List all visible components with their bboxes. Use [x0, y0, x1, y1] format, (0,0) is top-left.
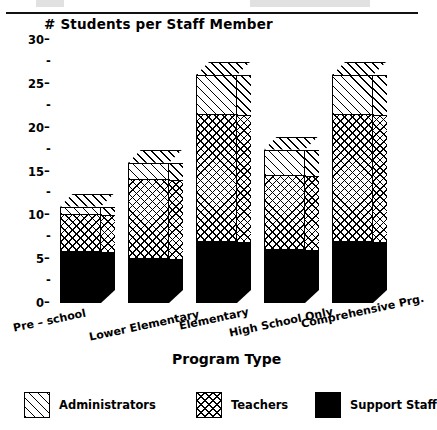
bar-segment-support-staff	[265, 249, 304, 302]
bar-front-face	[264, 150, 305, 303]
y-axis-tick-label: 5	[18, 254, 44, 264]
y-axis-tick-label: 15	[18, 167, 44, 177]
bar-right-segment-teachers	[305, 176, 319, 251]
bar-right-face	[237, 62, 251, 303]
bar-front-face	[128, 163, 169, 303]
bar-segment-support-staff	[197, 241, 236, 302]
bar-segment-teachers	[265, 175, 304, 250]
y-axis-tick-mark: –	[44, 166, 50, 176]
bar-segment-teachers	[129, 179, 168, 258]
bar-segment-support-staff	[333, 241, 372, 302]
y-axis-minor-tick-mark: -	[46, 275, 51, 285]
legend-swatch-solid	[315, 392, 341, 418]
bar-right-segment-support-staff	[101, 252, 115, 303]
bar-segment-administrators	[265, 150, 304, 175]
y-axis-tick-label: 0	[18, 298, 44, 308]
legend-swatch-diagonal	[24, 392, 50, 418]
bar-segment-administrators	[197, 75, 236, 113]
y-axis-tick-mark: –	[44, 297, 50, 307]
legend-label: Teachers	[231, 398, 288, 412]
y-axis-tick-label: 30	[18, 35, 44, 45]
bar-right-segment-administrators	[305, 150, 319, 176]
legend-label: Support Staff	[350, 398, 437, 412]
bar-right-face	[101, 194, 115, 303]
bar-right-face-wrap	[237, 62, 251, 303]
bar-right-segment-administrators	[373, 75, 387, 114]
legend-item-administrators[interactable]: Administrators	[24, 392, 156, 418]
legend-item-support-staff[interactable]: Support Staff	[315, 392, 437, 418]
bar-segment-teachers	[333, 114, 372, 241]
bar-right-face-wrap	[305, 137, 319, 303]
y-axis-tick-label: 25	[18, 79, 44, 89]
y-axis-minor-tick-mark: -	[46, 144, 51, 154]
y-axis-tick-mark: –	[44, 209, 50, 219]
y-axis-minor-tick-mark: -	[46, 231, 51, 241]
y-axis-minor-tick-mark: -	[46, 56, 51, 66]
bar-segment-support-staff	[61, 251, 100, 302]
bar-front-face	[60, 207, 101, 303]
bar-right-segment-administrators	[101, 207, 115, 216]
bar-3[interactable]	[196, 62, 250, 303]
y-axis-tick-mark: –	[44, 34, 50, 44]
y-axis-minor-tick-mark: -	[46, 100, 51, 110]
bar-right-face	[169, 150, 183, 303]
bar-right-segment-support-staff	[373, 242, 387, 303]
y-axis-tick-label: 10	[18, 210, 44, 220]
bar-front-face	[332, 75, 373, 303]
bar-segment-teachers	[197, 114, 236, 241]
bar-right-segment-support-staff	[169, 259, 183, 303]
x-axis-title: Program Type	[172, 351, 281, 367]
bar-right-face	[305, 137, 319, 303]
legend-item-teachers[interactable]: Teachers	[196, 392, 288, 418]
bar-segment-support-staff	[129, 258, 168, 302]
bar-1[interactable]	[60, 194, 114, 303]
y-axis-tick-mark: –	[44, 78, 50, 88]
bar-5[interactable]	[332, 62, 386, 303]
bar-right-face-wrap	[373, 62, 387, 303]
bar-2[interactable]	[128, 150, 182, 303]
y-axis-minor-tick-mark: -	[46, 187, 51, 197]
y-axis-tick-label: 20	[18, 123, 44, 133]
bar-right-segment-administrators	[237, 75, 251, 114]
bar-segment-administrators	[333, 75, 372, 113]
bar-right-segment-teachers	[169, 180, 183, 259]
y-axis-tick-mark: –	[44, 122, 50, 132]
bar-right-segment-teachers	[373, 115, 387, 242]
bar-right-segment-administrators	[169, 163, 183, 181]
y-axis-tick-mark: –	[44, 253, 50, 263]
bar-segment-teachers	[61, 214, 100, 251]
bar-front-face	[196, 75, 237, 303]
bar-segment-administrators	[129, 163, 168, 180]
bar-right-segment-teachers	[101, 215, 115, 252]
legend-swatch-cross-hatch	[196, 392, 222, 418]
bar-right-segment-teachers	[237, 115, 251, 242]
bar-right-segment-support-staff	[237, 242, 251, 303]
bar-right-face	[373, 62, 387, 303]
bar-right-segment-support-staff	[305, 250, 319, 303]
bar-4[interactable]	[264, 137, 318, 303]
bar-right-face-wrap	[169, 150, 183, 303]
bar-right-face-wrap	[101, 194, 115, 303]
bar-segment-administrators	[61, 207, 100, 215]
legend-label: Administrators	[59, 398, 156, 412]
